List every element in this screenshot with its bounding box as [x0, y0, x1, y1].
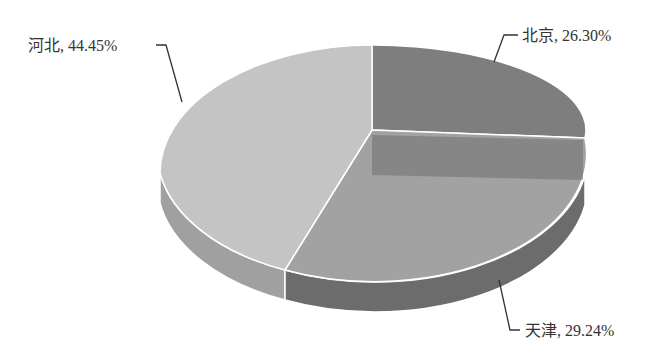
label-hebei: 河北, 44.45%: [28, 37, 117, 54]
slice-beijing: [372, 45, 586, 138]
pie-chart: 河北, 44.45% 北京, 26.30% 天津, 29.24%: [0, 0, 671, 360]
leader-line-beijing: [494, 35, 518, 62]
label-beijing: 北京, 26.30%: [522, 27, 611, 44]
leader-line-tianjin: [499, 280, 520, 330]
slice-inner-shade: [372, 135, 583, 180]
leader-line-hebei: [156, 45, 182, 102]
label-tianjin: 天津, 29.24%: [525, 322, 614, 339]
